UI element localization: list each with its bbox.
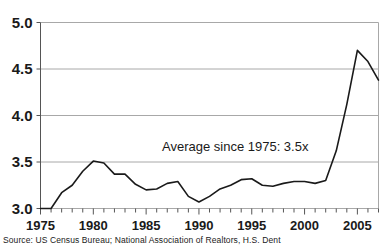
x-tick-label: 1995 <box>237 218 266 233</box>
x-tick-label: 1980 <box>79 218 108 233</box>
chart-annotation: Average since 1975: 3.5x <box>162 139 309 154</box>
x-tick-label: 2005 <box>343 218 372 233</box>
y-tick-label: 4.0 <box>12 107 33 124</box>
x-tick-label: 1990 <box>184 218 213 233</box>
y-tick-label: 3.0 <box>12 200 33 217</box>
x-tick-label: 2000 <box>290 218 319 233</box>
annotation-text: Average since 1975: 3.5x <box>162 139 309 154</box>
source-note: Source: US Census Bureau; National Assoc… <box>3 235 281 245</box>
x-tick-label: 1985 <box>132 218 161 233</box>
y-tick-label: 4.5 <box>12 60 33 77</box>
y-tick-label: 5.0 <box>12 14 33 31</box>
line-chart: 3.03.54.04.55.0 197519801985199019952000… <box>0 0 392 252</box>
chart-container: 3.03.54.04.55.0 197519801985199019952000… <box>0 0 392 252</box>
x-tick-label: 1975 <box>26 218 55 233</box>
plot-background <box>0 0 392 252</box>
y-tick-label: 3.5 <box>12 153 33 170</box>
